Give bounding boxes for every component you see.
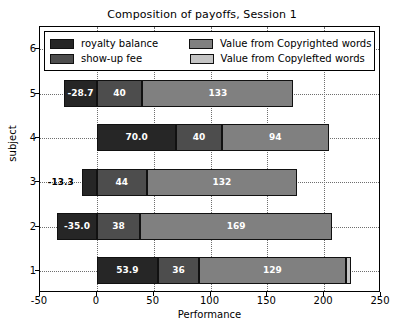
bar-value-label: 40 [193, 133, 206, 142]
bar-group-subject-2: -35.038169 [40, 213, 379, 240]
bar-value-label: 132 [212, 178, 231, 187]
bar-segment [82, 169, 97, 196]
bar-value-label: 70.0 [126, 133, 148, 142]
x-tick-label: 200 [314, 295, 333, 306]
bar-value-label: 53.9 [116, 266, 138, 275]
bar-value-label: 169 [227, 222, 246, 231]
x-tick-mark [96, 292, 97, 296]
chart-title: Composition of payoffs, Session 1 [0, 8, 404, 21]
y-tick-mark [35, 137, 39, 138]
legend-swatch [50, 39, 74, 49]
legend-entry: royalty balance [50, 38, 189, 49]
legend-entry: show-up fee [50, 53, 190, 64]
bar-segment: 70.0 [97, 124, 177, 151]
legend-swatch [189, 39, 213, 49]
y-tick-mark [35, 226, 39, 227]
legend-row: royalty balanceValue from Copyrighted wo… [50, 36, 369, 51]
bar-group-subject-5: -28.740133 [40, 80, 379, 107]
bar-segment: 129 [199, 257, 346, 284]
bar-group-subject-1: 53.936129 [40, 257, 379, 284]
bar-segment: 36 [158, 257, 199, 284]
bar-segment: 44 [97, 169, 147, 196]
x-tick-mark [380, 292, 381, 296]
x-axis-label: Performance [39, 309, 380, 320]
x-tick-label: 100 [200, 295, 219, 306]
chart-legend: royalty balanceValue from Copyrighted wo… [44, 31, 375, 71]
bar-segment: 169 [140, 213, 332, 240]
bar-segment: 40 [97, 80, 142, 107]
bar-value-label: 94 [269, 133, 282, 142]
bar-segment [346, 257, 352, 284]
bar-value-label: 133 [208, 89, 227, 98]
x-tick-label: 150 [257, 295, 276, 306]
legend-entry: Value from Copylefted words [190, 53, 369, 64]
bar-segment: 94 [222, 124, 329, 151]
legend-swatch [190, 54, 214, 64]
bar-segment: 53.9 [97, 257, 158, 284]
legend-label: Value from Copyrighted words [220, 38, 371, 49]
bar-segment: 40 [176, 124, 221, 151]
legend-label: royalty balance [81, 38, 158, 49]
bar-value-label: 38 [112, 222, 125, 231]
legend-label: show-up fee [81, 53, 142, 64]
bar-value-label: 40 [113, 89, 126, 98]
x-tick-label: 0 [93, 295, 99, 306]
chart-figure: Composition of payoffs, Session 1 53.936… [0, 0, 404, 334]
legend-entry: Value from Copyrighted words [189, 38, 369, 49]
x-tick-mark [323, 292, 324, 296]
bar-value-label: -35.0 [64, 222, 90, 231]
x-tick-mark [153, 292, 154, 296]
bar-group-subject-3: -13.344132 [40, 169, 379, 196]
bar-value-label: -28.7 [68, 89, 94, 98]
y-tick-mark [35, 48, 39, 49]
bar-segment: 132 [147, 169, 297, 196]
bar-segment: 38 [97, 213, 140, 240]
bar-value-label: 44 [116, 178, 129, 187]
bar-segment: -28.7 [64, 80, 97, 107]
x-tick-label: 50 [146, 295, 159, 306]
y-tick-mark [35, 93, 39, 94]
bar-value-label: 36 [172, 266, 185, 275]
x-tick-label: 250 [370, 295, 389, 306]
bar-value-label: 129 [263, 266, 282, 275]
bar-segment: -35.0 [57, 213, 97, 240]
bar-value-label: -13.3 [48, 169, 74, 196]
legend-row: show-up feeValue from Copylefted words [50, 51, 369, 66]
x-tick-mark [39, 292, 40, 296]
bar-segment: 133 [142, 80, 293, 107]
legend-label: Value from Copylefted words [221, 53, 365, 64]
x-tick-mark [210, 292, 211, 296]
y-tick-mark [35, 270, 39, 271]
y-tick-mark [35, 181, 39, 182]
bar-group-subject-4: 70.04094 [40, 124, 379, 151]
x-tick-label: -50 [31, 295, 47, 306]
x-tick-mark [266, 292, 267, 296]
legend-swatch [50, 54, 74, 64]
y-axis-label: subject [7, 109, 18, 179]
